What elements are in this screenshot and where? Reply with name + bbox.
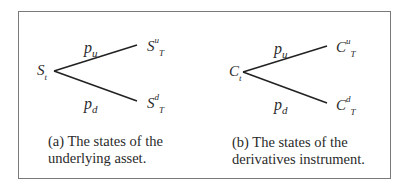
tree-a-down-node: SdT	[147, 95, 164, 114]
prob-symbol: p	[274, 40, 282, 57]
node-symbol: S	[37, 62, 45, 78]
prob-subscript: d	[92, 103, 98, 115]
prob-subscript: u	[92, 47, 98, 59]
node-superscript: u	[346, 36, 351, 46]
node-symbol: C	[336, 97, 346, 113]
node-superscript: u	[155, 35, 160, 45]
tree-b-down-node: CdT	[336, 97, 356, 116]
tree-a-root-node: St	[37, 63, 47, 81]
tree-a-up-node: SuT	[147, 38, 164, 57]
node-symbol: S	[147, 38, 155, 54]
node-symbol: C	[336, 39, 346, 55]
caption-b-line-1: (b) The states of the	[232, 134, 365, 151]
node-subscript: t	[239, 73, 242, 83]
tree-b-up-node: CuT	[336, 39, 356, 58]
tree-b-down-probability: pd	[274, 97, 288, 116]
node-superscript: d	[346, 94, 351, 104]
prob-symbol: p	[84, 95, 92, 112]
node-subscript: T	[159, 105, 164, 115]
caption-a: (a) The states of the underlying asset.	[48, 133, 163, 167]
prob-symbol: p	[274, 96, 282, 113]
prob-subscript: d	[282, 104, 288, 116]
node-superscript: d	[155, 92, 160, 102]
prob-symbol: p	[84, 39, 92, 56]
tree-a-down-probability: pd	[84, 96, 98, 115]
node-subscript: T	[351, 107, 356, 117]
prob-subscript: u	[282, 48, 288, 60]
node-subscript: t	[45, 72, 48, 82]
node-symbol: S	[147, 95, 155, 111]
node-symbol: C	[229, 63, 239, 79]
node-subscript: T	[159, 48, 164, 58]
caption-b: (b) The states of the derivatives instru…	[232, 134, 365, 168]
tree-b-root-node: Ct	[229, 64, 242, 82]
caption-b-line-2: derivatives instrument.	[232, 151, 365, 168]
tree-a-up-probability: pu	[84, 40, 98, 59]
caption-a-line-2: underlying asset.	[48, 150, 163, 167]
node-subscript: T	[351, 49, 356, 59]
tree-b-up-probability: pu	[274, 41, 288, 60]
caption-a-line-1: (a) The states of the	[48, 133, 163, 150]
